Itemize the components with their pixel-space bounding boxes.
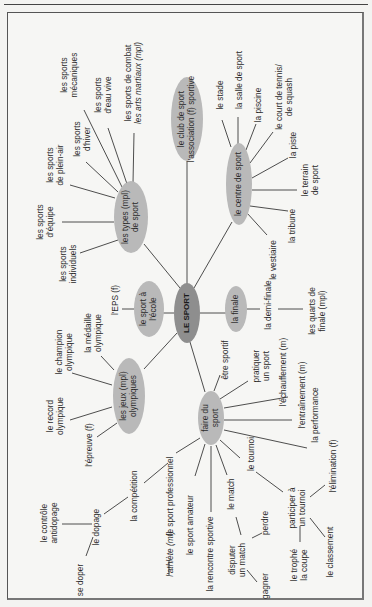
- leaf-etre-sportif: être sportif: [221, 340, 231, 379]
- node-club-de-sport: le club de sportl'association (f) sporti…: [177, 76, 196, 162]
- leaf-sports-de-combat: les sports de combatles arts martiaux (m…: [124, 42, 143, 124]
- leaf-tournoi: le tournoi: [247, 437, 257, 471]
- leaf-text: l'épreuve (f): [84, 423, 94, 467]
- node-faire-du-sport: faire dusport: [201, 404, 220, 432]
- leaf-gagner: gagner: [261, 573, 271, 599]
- leaf-text: les sports: [93, 77, 103, 113]
- leaf-elimination: l'élimination (f): [329, 439, 339, 492]
- node-label: les types (mpl): [120, 190, 130, 244]
- leaf-record-olympique: le recordolympique: [46, 397, 65, 435]
- leaf-text: l'entraînement (m): [297, 361, 307, 428]
- leaf-text: le match: [226, 478, 236, 509]
- leaf-text: olympique: [64, 333, 74, 371]
- leaf-performance: la performance: [311, 387, 321, 442]
- leaf-text: de plein-air: [55, 144, 65, 185]
- leaf-text: les sports: [35, 204, 45, 240]
- leaf-text: le tournoi: [246, 437, 256, 471]
- leaf-tribune: la tribune: [288, 209, 298, 243]
- leaf-text: la coupe: [299, 549, 309, 580]
- leaf-text: le vestiaire: [268, 240, 278, 280]
- node-label: le club de sport: [176, 91, 186, 147]
- leaf-medaille-olympique: la médailleolympique: [84, 313, 103, 353]
- leaf-text: la compétition: [129, 470, 139, 521]
- leaf-text: l'EPS (f): [110, 285, 120, 315]
- leaf-disputer-un-match: disputerun match: [228, 543, 247, 577]
- leaf-sports-hiver: les sportsd'hiver: [73, 121, 92, 157]
- leaf-court-tennis: le court de tennis/de squash: [275, 64, 294, 130]
- leaf-text: les sports: [59, 57, 69, 93]
- leaf-text: individuels: [68, 245, 78, 284]
- leaf-match: le match: [227, 478, 237, 509]
- leaf-sports-mecaniques: les sportsmécaniques: [60, 53, 79, 98]
- leaf-entrainement: l'entraînement (m): [298, 361, 308, 428]
- node-label: le centre de sport: [233, 152, 243, 216]
- leaf-text: le stade: [215, 80, 225, 109]
- leaf-text: la médaille: [83, 313, 93, 353]
- leaf-text: les arts martiaux (mpl): [133, 42, 143, 124]
- node-label: de sport: [130, 202, 140, 232]
- leaf-classement: le classement: [326, 527, 336, 578]
- leaf-text: le champion: [54, 330, 64, 375]
- leaf-stade: le stade: [216, 80, 226, 109]
- leaf-text: le contrôle: [39, 504, 49, 542]
- leaf-terrain-de-sport: le terrainde sport: [301, 164, 320, 196]
- leaf-salle-de-sport: la salle de sport: [235, 51, 245, 109]
- leaf-text: le dopage: [91, 509, 101, 545]
- node-le-sport-label: LE SPORT: [182, 293, 191, 333]
- node-label: olympiques: [128, 375, 138, 417]
- leaf-text: olympique: [93, 314, 103, 352]
- node-label: l'association (f) sportive: [186, 76, 196, 162]
- leaf-text: l'élimination (f): [328, 439, 338, 492]
- leaf-text: le sport amateur: [185, 495, 195, 555]
- leaf-sport-amateur: le sport amateur: [186, 495, 196, 555]
- leaf-text: les sports: [45, 147, 55, 183]
- leaf-vestiaire: le vestiaire: [269, 240, 279, 280]
- node-label: sport: [210, 409, 220, 427]
- leaf-perdre: perdre: [261, 511, 271, 535]
- leaf-text: finale (mpl): [317, 290, 327, 331]
- leaf-echauffement: l'échauffement (m): [279, 338, 289, 406]
- leaf-text: les sports: [72, 121, 82, 157]
- leaf-text: le trophé: [289, 549, 299, 581]
- leaf-controle-antidopage: le contrôleantidopage: [40, 502, 59, 543]
- leaf-text: les sports: [58, 246, 68, 282]
- leaf-text: la demi-finale: [263, 280, 273, 329]
- leaf-text: d'hiver: [82, 127, 92, 151]
- leaf-text: être sportif: [220, 340, 230, 379]
- leaf-text: mécaniques: [69, 53, 79, 98]
- leaf-text: de sport: [310, 165, 320, 195]
- leaf-text: la rencontre sportive: [205, 516, 215, 591]
- leaf-text: les quarts de: [307, 287, 317, 335]
- node-label: l'école: [148, 297, 158, 320]
- node-label: la finale: [230, 295, 240, 324]
- leaf-text: d'équipe: [45, 206, 55, 237]
- leaf-text: gagner: [260, 573, 270, 599]
- leaf-competition: la compétition: [130, 470, 140, 521]
- leaf-text: la tribune: [287, 209, 297, 243]
- leaf-champion-olympique: le championolympique: [55, 330, 74, 375]
- node-sport-a-lecole: le sport àl'école: [139, 292, 158, 326]
- leaf-pratiquer-un-sport: pratiquerun sport: [252, 350, 271, 383]
- leaf-eps: l'EPS (f): [111, 285, 121, 315]
- leaf-text: perdre: [260, 511, 270, 535]
- node-centre-de-sport: le centre de sport: [234, 152, 244, 216]
- leaf-sports-eau-vive: les sportsd'eau vive: [94, 76, 113, 113]
- leaf-text: l'athlète (mf): [165, 531, 175, 576]
- leaf-trophee-coupe: le trophéla coupe: [290, 549, 309, 581]
- leaf-sport-professionnel: le sport professionnel: [166, 457, 176, 536]
- leaf-quarts-de-finale: les quarts definale (mpl): [308, 287, 327, 335]
- leaf-sports-individuels: les sportsindividuels: [59, 245, 78, 284]
- leaf-text: la performance: [310, 387, 320, 442]
- leaf-text: la piscine: [253, 88, 263, 123]
- leaf-text: pratiquer: [251, 350, 261, 383]
- node-la-finale: la finale: [231, 295, 241, 324]
- leaf-text: disputer: [227, 545, 237, 575]
- leaf-text: un sport: [261, 351, 271, 381]
- leaf-text: l'échauffement (m): [278, 338, 288, 406]
- leaf-text: le court de tennis/: [274, 64, 284, 130]
- node-types-de-sport: les types (mpl)de sport: [121, 190, 140, 244]
- leaf-text: d'eau vive: [103, 76, 113, 113]
- leaf-piste: la piste: [289, 132, 299, 158]
- leaf-sports-plein-air: les sportsde plein-air: [46, 144, 65, 185]
- leaf-text: le classement: [325, 527, 335, 578]
